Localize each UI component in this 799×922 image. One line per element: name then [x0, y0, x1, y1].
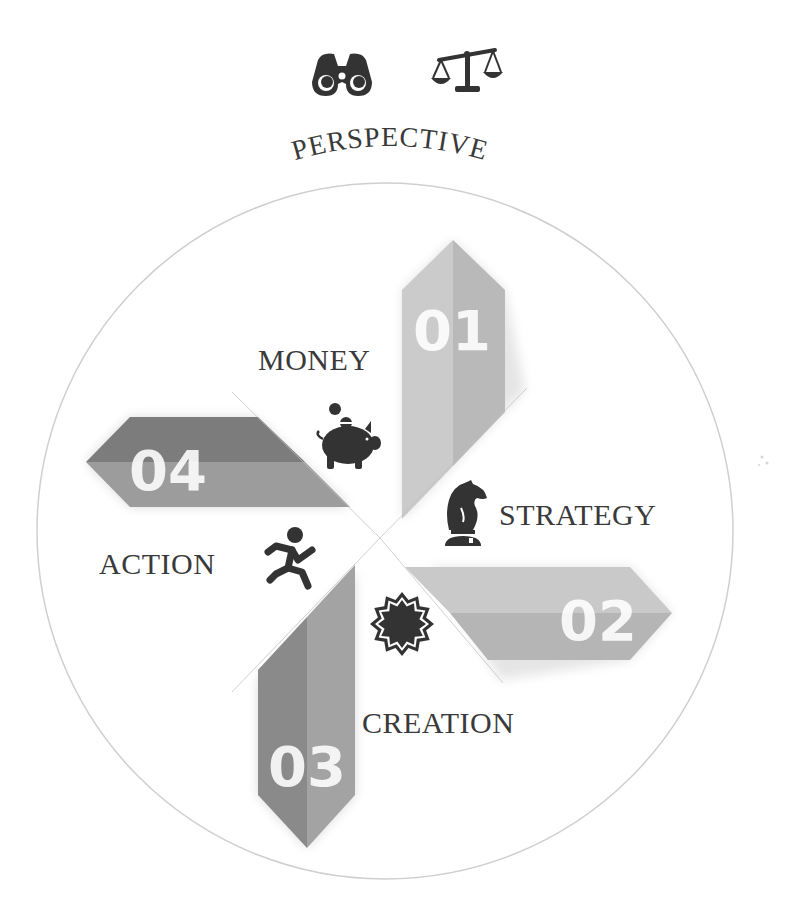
faint-mark [758, 456, 769, 467]
running-person-icon [268, 527, 312, 586]
arrow-01: 01 [402, 240, 525, 520]
arrow-02: 02 [405, 567, 672, 680]
arrow-02-number: 02 [559, 588, 637, 653]
label-action: ACTION [99, 549, 215, 579]
infographic: PERSPECTIVE 01 02 03 [0, 0, 799, 922]
title-perspective: PERSPECTIVE [288, 121, 492, 166]
arrow-04-number: 04 [129, 438, 207, 503]
binoculars-icon [312, 54, 372, 96]
chess-knight-icon [445, 480, 487, 546]
arrow-03: 03 [258, 565, 355, 848]
arrow-01-number: 01 [413, 298, 491, 363]
outer-circle [37, 183, 733, 879]
label-strategy: STRATEGY [499, 500, 656, 530]
label-money: MONEY [258, 345, 371, 375]
label-creation: CREATION [362, 708, 514, 738]
arrow-03-number: 03 [268, 734, 346, 799]
arrow-04: 04 [86, 417, 350, 507]
piggy-bank-icon [318, 403, 381, 469]
starburst-icon [370, 592, 434, 656]
scales-icon [431, 50, 503, 92]
diagram-canvas: PERSPECTIVE 01 02 03 [0, 0, 799, 922]
